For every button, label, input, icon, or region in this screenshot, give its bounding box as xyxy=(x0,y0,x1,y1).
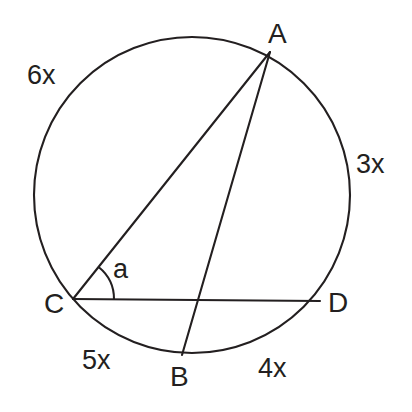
point-label-c: C xyxy=(44,290,64,318)
arc-label-6x: 6x xyxy=(27,62,56,89)
segment-c-to-d xyxy=(73,299,320,301)
segment-c-to-a xyxy=(73,52,270,299)
arc-label-3x: 3x xyxy=(356,151,385,178)
geometry-canvas xyxy=(0,0,412,412)
angle-label-a: a xyxy=(113,256,128,283)
angle-arc-at-c xyxy=(99,267,114,299)
point-label-a: A xyxy=(268,20,287,48)
circle-shape xyxy=(34,37,350,353)
point-label-b: B xyxy=(170,363,189,391)
point-label-d: D xyxy=(328,289,348,317)
geometry-figure: A B C D a 6x 3x 5x 4x xyxy=(0,0,412,412)
arc-label-4x: 4x xyxy=(258,355,287,382)
segment-a-to-b xyxy=(182,52,270,355)
arc-label-5x: 5x xyxy=(82,347,111,374)
